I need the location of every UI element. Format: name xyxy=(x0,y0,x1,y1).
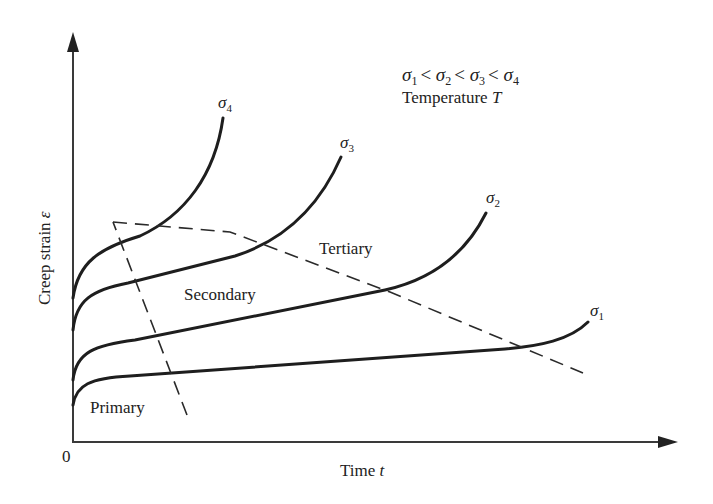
label-sigma-2: σ2 xyxy=(486,188,500,209)
label-sigma-3: σ3 xyxy=(340,133,354,154)
region-tertiary-label: Tertiary xyxy=(319,239,373,258)
creep-diagram: Creep strain ε Time t 0 σ1< σ2< σ3< σ4 T… xyxy=(0,0,713,504)
x-axis-arrow-icon xyxy=(658,436,678,448)
label-sigma-1: σ1 xyxy=(590,301,604,322)
label-sigma-4: σ4 xyxy=(218,93,232,114)
curve-sigma-3 xyxy=(73,157,341,330)
y-axis-arrow-icon xyxy=(67,32,79,52)
diagram-canvas: Creep strain ε Time t 0 σ1< σ2< σ3< σ4 T… xyxy=(0,0,713,504)
x-axis-label: Time t xyxy=(340,461,386,480)
curve-sigma-4 xyxy=(73,118,223,298)
region-secondary-label: Secondary xyxy=(184,285,256,304)
origin-label: 0 xyxy=(62,447,71,466)
region-primary-label: Primary xyxy=(90,398,145,417)
stress-relation: σ1< σ2< σ3< σ4 xyxy=(402,64,519,88)
curve-sigma-1 xyxy=(73,322,588,405)
y-axis-label: Creep strain ε xyxy=(35,211,54,305)
primary-secondary-boundary xyxy=(113,222,187,415)
temperature-label: Temperature T xyxy=(402,88,503,107)
